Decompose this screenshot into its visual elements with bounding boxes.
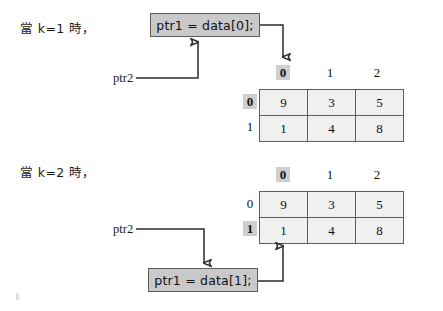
row-index-0-top: 0	[243, 94, 257, 109]
cell-r0c0-top: 9	[260, 90, 308, 116]
caption-k2: 當 k=2 時，	[20, 162, 96, 181]
cell-r1c0-top: 1	[260, 116, 308, 142]
caption-k1: 當 k=1 時，	[20, 18, 96, 37]
cell-r0c2-bottom: 5	[356, 192, 404, 218]
cell-r1c2-bottom: 8	[356, 218, 404, 244]
connector-wires	[0, 0, 443, 311]
cell-r1c0-bottom: 1	[260, 218, 308, 244]
cell-r0c1-top: 3	[308, 90, 356, 116]
wire-ptr2-to-codebox-top	[136, 42, 198, 78]
pointer-label-ptr2-top: ptr2	[113, 71, 133, 86]
cell-r0c1-bottom: 3	[308, 192, 356, 218]
row-index-1-top: 1	[243, 119, 257, 134]
column-index-1-bottom: 1	[323, 167, 337, 182]
table-row: 1 4 8	[260, 218, 404, 244]
pointer-label-ptr2-bottom: ptr2	[113, 222, 133, 237]
scan-speck	[16, 293, 19, 300]
matrix-table-bottom: 9 3 5 1 4 8	[259, 191, 404, 244]
matrix-table-top: 9 3 5 1 4 8	[259, 89, 404, 142]
column-index-0-bottom: 0	[276, 167, 290, 182]
wire-ptr2-to-codebox-bottom	[136, 229, 204, 263]
cell-r1c1-bottom: 4	[308, 218, 356, 244]
column-index-2-bottom: 2	[370, 167, 384, 182]
code-box-ptr1-data0: ptr1 = data[0];	[150, 13, 260, 37]
table-row: 9 3 5	[260, 90, 404, 116]
row-index-1-bottom: 1	[243, 221, 257, 236]
cell-r1c1-top: 4	[308, 116, 356, 142]
row-index-0-bottom: 0	[243, 196, 257, 211]
cell-r0c2-top: 5	[356, 90, 404, 116]
column-index-1-top: 1	[323, 65, 337, 80]
wire-codebox-to-column0-top	[260, 25, 283, 57]
cell-r1c2-top: 8	[356, 116, 404, 142]
code-box-ptr1-data1: ptr1 = data[1];	[148, 268, 258, 292]
column-index-2-top: 2	[370, 65, 384, 80]
wire-codebox-to-row1-bottom	[258, 246, 283, 281]
cell-r0c0-bottom: 9	[260, 192, 308, 218]
column-index-0-top: 0	[276, 65, 290, 80]
table-row: 9 3 5	[260, 192, 404, 218]
diagram-canvas: 當 k=1 時， ptr1 = data[0]; ptr2 0 1 2 0 1 …	[0, 0, 443, 311]
table-row: 1 4 8	[260, 116, 404, 142]
